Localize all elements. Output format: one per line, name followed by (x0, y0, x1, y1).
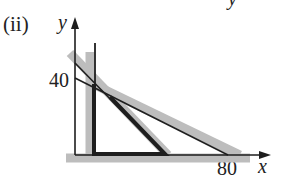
y-axis-arrow-icon (71, 17, 79, 29)
x-axis-arrow-icon (259, 151, 271, 159)
feasible-region-diagram (0, 0, 284, 188)
shade-band-line-b (95, 85, 240, 155)
